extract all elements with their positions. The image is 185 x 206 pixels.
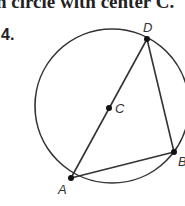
point-c: [106, 105, 112, 111]
label-b: B: [178, 154, 185, 169]
label-d: D: [143, 20, 152, 35]
point-b: [171, 149, 177, 155]
point-a: [68, 175, 74, 181]
segment-ab: [71, 152, 174, 178]
label-c: C: [115, 101, 125, 116]
circle-diagram: D C B A: [0, 0, 185, 206]
point-d: [144, 36, 150, 42]
label-a: A: [57, 182, 67, 197]
